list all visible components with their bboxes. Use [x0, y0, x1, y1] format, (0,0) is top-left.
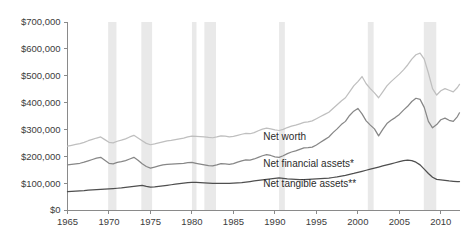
chart-canvas: $0$100,000$200,000$300,000$400,000$500,0…: [0, 0, 466, 239]
y-tick-label: $0: [50, 204, 61, 215]
x-tick-label: 1990: [264, 216, 285, 227]
series-label: Net tangible assets**: [263, 178, 356, 189]
x-tick-label: 2000: [347, 216, 368, 227]
x-tick-label: 1975: [140, 216, 161, 227]
recession-band: [368, 22, 374, 210]
x-tick-label: 1985: [223, 216, 244, 227]
y-tick-label: $500,000: [21, 70, 61, 81]
series-label: Net financial assets*: [263, 158, 354, 169]
net-worth-chart: $0$100,000$200,000$300,000$400,000$500,0…: [0, 0, 466, 239]
y-ticks-group: $0$100,000$200,000$300,000$400,000$500,0…: [21, 16, 68, 215]
y-tick-label: $200,000: [21, 151, 61, 162]
x-tick-label: 1970: [98, 216, 119, 227]
x-ticks-group: 1965197019751980198519901995200020052010: [57, 210, 451, 227]
x-tick-label: 1980: [181, 216, 202, 227]
data-series-group: [68, 53, 460, 192]
x-axis-group: 1965197019751980198519901995200020052010: [57, 210, 460, 227]
y-tick-label: $100,000: [21, 178, 61, 189]
recession-band: [204, 22, 216, 210]
series-label: Net worth: [263, 131, 306, 142]
y-tick-label: $700,000: [21, 16, 61, 27]
recession-band: [424, 22, 436, 210]
y-tick-label: $400,000: [21, 97, 61, 108]
y-tick-label: $600,000: [21, 43, 61, 54]
x-tick-label: 2010: [430, 216, 451, 227]
x-tick-label: 1995: [306, 216, 327, 227]
x-tick-label: 1965: [57, 216, 78, 227]
x-tick-label: 2005: [389, 216, 410, 227]
y-tick-label: $300,000: [21, 124, 61, 135]
series-labels-group: Net worthNet financial assets*Net tangib…: [263, 131, 356, 189]
y-axis-group: $0$100,000$200,000$300,000$400,000$500,0…: [21, 16, 68, 215]
recession-band: [108, 22, 116, 210]
recession-band: [141, 22, 152, 210]
